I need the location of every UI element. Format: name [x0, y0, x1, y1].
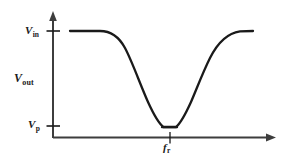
vout-symbol: V	[14, 71, 22, 85]
y-axis-label-vp: Vp	[28, 119, 40, 130]
notch-filter-response-figure: Vin Vout Vp fr	[0, 0, 282, 162]
x-axis-arrowhead	[266, 134, 276, 142]
x-axis-label-fr: fr	[163, 142, 170, 153]
fr-subscript: r	[167, 146, 170, 155]
vp-subscript: p	[36, 124, 40, 133]
y-axis-arrowhead	[49, 11, 57, 21]
y-axis-label-vin: Vin	[25, 25, 39, 36]
y-axis-label-vout: Vout	[14, 72, 33, 84]
vin-subscript: in	[33, 30, 39, 39]
vout-subscript: out	[22, 78, 33, 87]
plot-canvas	[0, 0, 282, 162]
vp-symbol: V	[28, 118, 35, 130]
vin-symbol: V	[25, 24, 32, 36]
response-curve	[70, 31, 253, 127]
